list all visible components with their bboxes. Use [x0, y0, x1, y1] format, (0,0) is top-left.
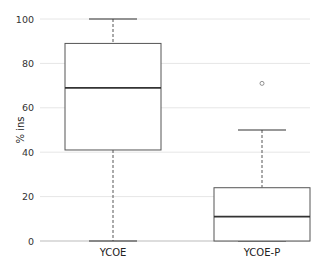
- y-tick-label: 0: [28, 236, 34, 247]
- y-tick-label: 60: [22, 102, 34, 113]
- y-axis-label: % ins: [15, 116, 26, 143]
- y-tick-label: 40: [22, 147, 34, 158]
- boxes: [65, 19, 310, 241]
- iqr-box: [65, 43, 161, 150]
- x-axis-categories: YCOEYCOE-P: [99, 247, 281, 258]
- box-ycoe: [65, 19, 161, 241]
- y-tick-label: 80: [22, 58, 34, 69]
- box-ycoe-p: [214, 81, 310, 241]
- box-plot: 020406080100 % ins YCOEYCOE-P: [0, 0, 323, 267]
- outlier-point: [260, 81, 264, 85]
- y-tick-label: 20: [22, 191, 34, 202]
- y-tick-label: 100: [16, 14, 34, 25]
- x-category-label: YCOE-P: [243, 247, 280, 258]
- iqr-box: [214, 188, 310, 241]
- x-category-label: YCOE: [99, 247, 127, 258]
